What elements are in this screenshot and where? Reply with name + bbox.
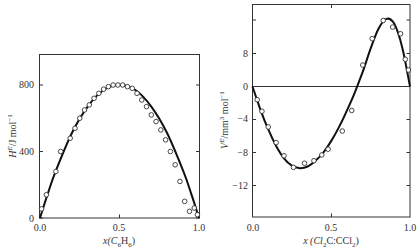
- right-y-tick-m12: −12: [232, 180, 248, 191]
- data-point: [302, 161, 307, 166]
- right-y-tick-m8: −8: [237, 147, 248, 158]
- left-x-tick-1: 1.0: [193, 222, 206, 233]
- data-point: [101, 87, 106, 92]
- data-point: [187, 209, 192, 214]
- data-point: [312, 158, 317, 163]
- data-point: [111, 83, 116, 88]
- data-point: [159, 128, 164, 133]
- left-y-axis-title: HE/J mol−1: [6, 114, 18, 159]
- data-point: [398, 31, 403, 36]
- data-point: [390, 25, 395, 30]
- data-point: [149, 113, 154, 118]
- data-point: [291, 165, 296, 170]
- left-fit-curve: [40, 85, 199, 218]
- left-chart-enthalpy: 0 400 800 0.0 0.5 1.0 x(C6H6) HE/J mol−1: [6, 55, 205, 249]
- data-point: [195, 212, 200, 217]
- data-point: [349, 108, 354, 113]
- data-point: [274, 140, 279, 145]
- data-point: [178, 179, 183, 184]
- data-point: [82, 108, 87, 113]
- data-point: [168, 149, 173, 154]
- data-point: [182, 199, 187, 204]
- data-point: [92, 96, 97, 101]
- data-point: [360, 63, 365, 68]
- data-point: [139, 98, 144, 103]
- data-point: [54, 169, 59, 174]
- right-chart-volume: 8 0 −4 −8 −12 0.0 0.5 1.0 x (Cl2C:CCl2) …: [218, 5, 416, 249]
- left-y-tick-400: 400: [19, 146, 34, 157]
- data-point: [44, 192, 49, 197]
- data-point: [116, 83, 121, 88]
- data-point: [144, 104, 149, 109]
- data-point: [163, 138, 168, 143]
- data-point: [39, 207, 44, 212]
- left-plot-frame: [40, 55, 200, 219]
- data-point: [73, 126, 78, 131]
- right-x-tick-0: 0.0: [247, 222, 260, 233]
- data-point: [120, 83, 125, 88]
- data-point: [125, 84, 130, 89]
- right-fit-curve: [253, 19, 411, 169]
- data-point: [340, 129, 345, 134]
- data-point: [326, 147, 331, 152]
- data-point: [154, 119, 159, 124]
- right-y-tick-m4: −4: [237, 113, 248, 124]
- data-point: [282, 154, 287, 159]
- data-point: [106, 84, 111, 89]
- data-point: [320, 153, 325, 158]
- data-point: [135, 91, 140, 96]
- left-x-tick-05: 0.5: [113, 222, 126, 233]
- right-plot-frame: [253, 5, 411, 218]
- right-y-axis-title: VE/mm3 mol−1: [218, 91, 230, 149]
- data-point: [68, 136, 73, 141]
- right-data-points: [255, 18, 411, 169]
- right-x-tick-05: 0.5: [325, 222, 338, 233]
- data-point: [266, 125, 271, 130]
- data-point: [77, 116, 82, 121]
- data-point: [87, 103, 92, 108]
- left-x-tick-0: 0.0: [34, 222, 47, 233]
- right-x-axis-title: x (Cl2C:CCl2): [302, 235, 359, 249]
- data-point: [370, 36, 375, 41]
- data-point: [260, 109, 265, 114]
- left-y-tick-800: 800: [19, 79, 34, 90]
- data-point: [403, 57, 408, 62]
- data-point: [173, 163, 178, 168]
- right-y-tick-0: 0: [243, 81, 248, 92]
- data-point: [406, 68, 411, 73]
- right-y-tick-8: 8: [243, 48, 248, 59]
- data-point: [130, 86, 135, 91]
- data-point: [381, 18, 386, 23]
- data-point: [192, 206, 197, 211]
- data-point: [97, 91, 102, 96]
- left-x-axis-title: x(C6H6): [102, 235, 135, 249]
- figure: 0 400 800 0.0 0.5 1.0 x(C6H6) HE/J mol−1…: [0, 0, 419, 249]
- right-ticks: [253, 5, 411, 218]
- data-point: [58, 149, 63, 154]
- right-x-tick-1: 1.0: [404, 222, 417, 233]
- data-point: [255, 97, 260, 102]
